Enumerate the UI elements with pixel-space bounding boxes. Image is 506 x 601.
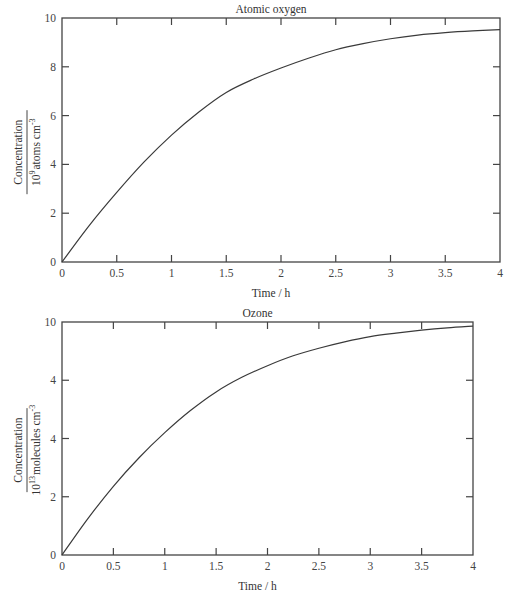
- y-tick-label: 4: [50, 433, 56, 445]
- y-axis-label-denominator: 109atoms cm-3: [28, 118, 42, 186]
- y-tick-label: 4: [50, 158, 56, 170]
- y-tick-label: 2: [50, 491, 56, 503]
- y-tick-label: 10: [45, 316, 57, 328]
- y-axis-label: Concentration109atoms cm-3: [12, 110, 42, 194]
- y-tick-label: 0: [50, 549, 56, 561]
- x-tick-label: 2: [265, 560, 271, 572]
- y-tick-label: 8: [50, 61, 56, 73]
- chart-panel-atomic-oxygen: Atomic oxygen00.511.522.533.540246810Tim…: [12, 3, 503, 299]
- x-tick-label: 4: [470, 560, 476, 572]
- x-tick-label: 1: [169, 267, 175, 279]
- y-tick-label: 6: [50, 110, 56, 122]
- data-curve-atomic-oxygen: [62, 30, 500, 262]
- figure: Atomic oxygen00.511.522.533.540246810Tim…: [0, 0, 506, 601]
- x-tick-label: 3: [367, 560, 373, 572]
- x-tick-label: 2.5: [312, 560, 327, 572]
- x-tick-label: 0.5: [106, 560, 121, 572]
- x-tick-label: 0.5: [110, 267, 125, 279]
- y-axis-label: Concentration1013molecules cm-3: [12, 405, 42, 496]
- x-tick-label: 1: [162, 560, 168, 572]
- plot-frame: [62, 18, 500, 262]
- x-tick-label: 3.5: [438, 267, 453, 279]
- chart-title: Atomic oxygen: [235, 3, 306, 16]
- chart-title: Ozone: [242, 307, 272, 319]
- x-tick-label: 3: [388, 267, 394, 279]
- x-tick-label: 1.5: [219, 267, 234, 279]
- y-tick-label: 4: [50, 374, 56, 386]
- x-tick-label: 3.5: [414, 560, 429, 572]
- chart-panel-ozone: Ozone00.511.522.533.54024410Time / hConc…: [12, 307, 476, 592]
- x-tick-label: 2: [278, 267, 284, 279]
- y-axis-label-denominator: 1013molecules cm-3: [28, 405, 42, 496]
- x-tick-label: 2.5: [329, 267, 344, 279]
- y-axis-label-numerator: Concentration: [12, 119, 24, 184]
- data-curve-ozone: [62, 326, 473, 555]
- x-tick-label: 0: [59, 560, 65, 572]
- y-tick-label: 0: [50, 256, 56, 268]
- x-tick-label: 4: [497, 267, 503, 279]
- y-tick-label: 10: [45, 12, 57, 24]
- plot-frame: [62, 322, 473, 555]
- x-tick-label: 0: [59, 267, 65, 279]
- x-axis-label: Time / h: [252, 287, 291, 299]
- x-axis-label: Time / h: [238, 580, 277, 592]
- y-tick-label: 2: [50, 207, 56, 219]
- y-axis-label-numerator: Concentration: [12, 417, 24, 482]
- x-tick-label: 1.5: [209, 560, 224, 572]
